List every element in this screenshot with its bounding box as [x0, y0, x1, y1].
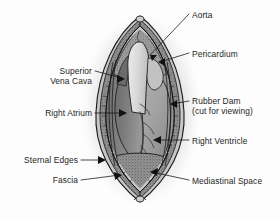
label-aorta: Aorta	[192, 10, 213, 20]
label-superior-vena-cava-line2: Vena Cava	[50, 76, 92, 86]
label-rubber-dam: Rubber Dam	[192, 96, 240, 106]
figure-canvas: Aorta Pericardium Rubber Dam (cut for vi…	[0, 0, 280, 219]
label-rubber-dam-note: (cut for viewing)	[192, 106, 253, 116]
label-mediastinal-space: Mediastinal Space	[192, 176, 262, 186]
label-superior-vena-cava: Superior	[60, 66, 92, 76]
label-sternal-edges: Sternal Edges	[24, 155, 78, 165]
label-pericardium: Pericardium	[192, 49, 238, 59]
label-right-atrium: Right Atrium	[45, 108, 92, 118]
label-fascia: Fascia	[53, 175, 78, 185]
label-right-ventricle: Right Ventricle	[192, 136, 248, 146]
